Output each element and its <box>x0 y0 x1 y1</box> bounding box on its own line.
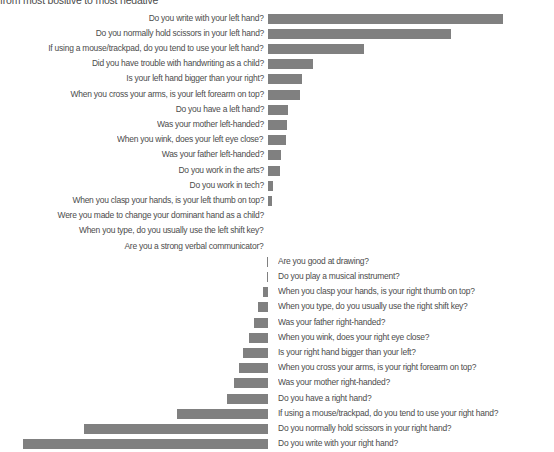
chart-row: Was your father right-handed? <box>0 315 554 330</box>
bar <box>268 196 272 206</box>
category-label: When you cross your arms, is your right … <box>278 361 476 374</box>
chart-row: Was your father left-handed? <box>0 148 554 163</box>
chart-row: Do you have a left hand? <box>0 102 554 117</box>
bar <box>267 257 268 267</box>
bar <box>268 44 364 54</box>
bar <box>249 333 268 343</box>
category-label: When you cross your arms, is your left f… <box>70 88 263 101</box>
bar <box>268 90 300 100</box>
category-label: Do you have a right hand? <box>278 392 371 405</box>
chart-row: Is your right hand bigger than your left… <box>0 345 554 360</box>
chart-row: Is your left hand bigger than your right… <box>0 72 554 87</box>
category-label: Was your mother left-handed? <box>157 118 264 131</box>
category-label: Do you have a left hand? <box>175 103 263 116</box>
chart-row: Were you made to change your dominant ha… <box>0 209 554 224</box>
category-label: When you clasp your hands, is your left … <box>72 194 264 207</box>
category-label: Are you a strong verbal communicator? <box>125 240 264 253</box>
bar <box>267 272 268 282</box>
bar <box>268 105 288 115</box>
category-label: Were you made to change your dominant ha… <box>57 209 263 222</box>
bar <box>268 135 286 145</box>
category-label: Did you have trouble with handwriting as… <box>92 57 264 70</box>
bar <box>268 120 287 130</box>
category-label: Was your father left-handed? <box>161 148 263 161</box>
category-label: When you clasp your hands, is your right… <box>278 285 475 298</box>
chart-row: Do you write with your left hand? <box>0 11 554 26</box>
category-label: Do you work in tech? <box>189 179 263 192</box>
chart-row: Are you a strong verbal communicator? <box>0 239 554 254</box>
bar <box>268 150 281 160</box>
category-label: If using a mouse/trackpad, do you tend t… <box>48 42 263 55</box>
chart-row: Was your mother left-handed? <box>0 117 554 132</box>
chart-row: Do you have a right hand? <box>0 391 554 406</box>
category-label: Do you write with your right hand? <box>278 437 398 450</box>
chart-row: Was your mother right-handed? <box>0 376 554 391</box>
chart-row: Are you good at drawing? <box>0 254 554 269</box>
category-label: Was your mother right-handed? <box>278 376 390 389</box>
bar <box>227 394 268 404</box>
bar <box>268 74 302 84</box>
category-label: Are you good at drawing? <box>278 255 369 268</box>
bar <box>23 439 268 449</box>
chart-row: When you clasp your hands, is your right… <box>0 285 554 300</box>
category-label: When you type, do you usually use the le… <box>79 224 264 237</box>
bar <box>268 59 313 69</box>
bar <box>258 302 268 312</box>
category-label: Do you normally hold scissors in your ri… <box>278 422 451 435</box>
bar <box>268 181 273 191</box>
bar <box>239 363 268 373</box>
bar <box>268 166 280 176</box>
chart-row: When you wink, does your left eye close? <box>0 133 554 148</box>
chart-row: Did you have trouble with handwriting as… <box>0 57 554 72</box>
bar <box>263 287 268 297</box>
chart-row: Do you normally hold scissors in your le… <box>0 26 554 41</box>
category-label: Is your right hand bigger than your left… <box>278 346 416 359</box>
category-label: Was your father right-handed? <box>278 316 385 329</box>
chart-row: When you type, do you usually use the le… <box>0 224 554 239</box>
chart-row: Do you work in tech? <box>0 178 554 193</box>
category-label: Do you write with your left hand? <box>149 12 264 25</box>
chart-row: Do you work in the arts? <box>0 163 554 178</box>
bar <box>177 409 268 419</box>
bar <box>243 348 268 358</box>
bar <box>268 14 503 24</box>
category-label: If using a mouse/trackpad, do you tend t… <box>278 407 498 420</box>
category-label: Is your left hand bigger than your right… <box>126 72 264 85</box>
chart-row: When you cross your arms, is your left f… <box>0 87 554 102</box>
chart-title: from most positive to most negative <box>0 0 300 4</box>
category-label: Do you normally hold scissors in your le… <box>95 27 263 40</box>
bar <box>254 318 268 328</box>
bar <box>84 424 268 434</box>
category-label: Do you work in the arts? <box>178 164 264 177</box>
category-label: When you wink, does your left eye close? <box>117 133 263 146</box>
category-label: When you wink, does your right eye close… <box>278 331 429 344</box>
chart-row: When you cross your arms, is your right … <box>0 361 554 376</box>
chart-row: If using a mouse/trackpad, do you tend t… <box>0 406 554 421</box>
chart-row: Do you write with your right hand? <box>0 437 554 452</box>
chart-row: When you type, do you usually use the ri… <box>0 300 554 315</box>
chart-row: If using a mouse/trackpad, do you tend t… <box>0 41 554 56</box>
category-label: Do you play a musical instrument? <box>278 270 400 283</box>
bar <box>234 378 268 388</box>
chart-row: Do you normally hold scissors in your ri… <box>0 421 554 436</box>
chart-row: When you clasp your hands, is your left … <box>0 193 554 208</box>
category-label: When you type, do you usually use the ri… <box>278 300 468 313</box>
chart-row: When you wink, does your right eye close… <box>0 330 554 345</box>
bar <box>268 29 451 39</box>
chart-row: Do you play a musical instrument? <box>0 269 554 284</box>
